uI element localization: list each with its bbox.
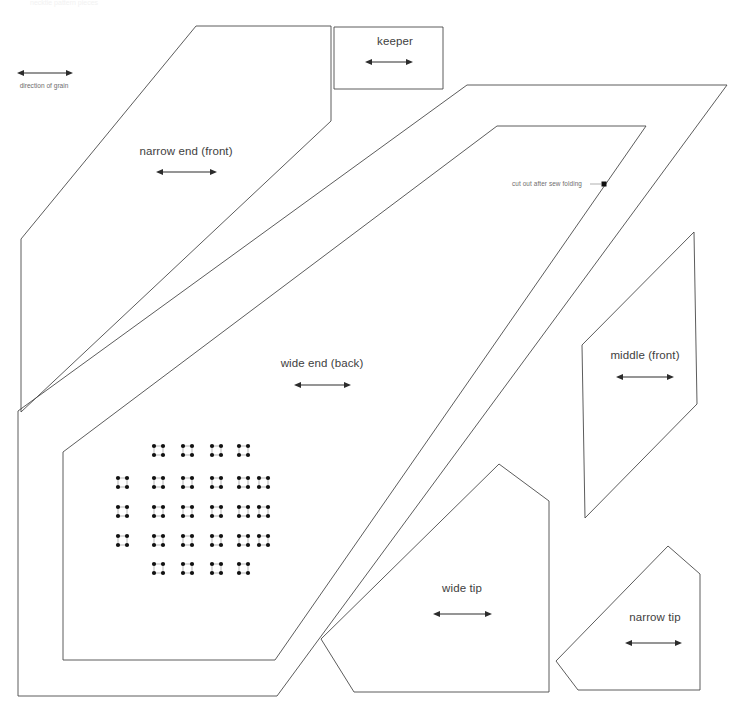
- marking-dot: [161, 476, 165, 480]
- marking-dot: [190, 534, 194, 538]
- marking-dot: [237, 505, 241, 509]
- marking-dot: [190, 571, 194, 575]
- piece-wide-tip[interactable]: [321, 464, 549, 692]
- marking-dot: [246, 514, 250, 518]
- marking-dot: [125, 485, 129, 489]
- marking-dot: [190, 453, 194, 457]
- marking-dot: [116, 514, 120, 518]
- marking-dot: [152, 444, 156, 448]
- marking-dot: [246, 485, 250, 489]
- marking-dot: [210, 534, 214, 538]
- wide-end-back-outline: [18, 85, 727, 696]
- marking-dot: [125, 505, 129, 509]
- marking-dot: [219, 534, 223, 538]
- marking-dot: [152, 534, 156, 538]
- marking-dot: [116, 505, 120, 509]
- marking-dot: [181, 476, 185, 480]
- grain-arrow-narrow-tip: [625, 640, 682, 646]
- marking-dot: [161, 485, 165, 489]
- label-keeper: keeper: [377, 35, 413, 47]
- marking-dot: [266, 514, 270, 518]
- marking-dot: [237, 485, 241, 489]
- marking-dot: [190, 543, 194, 547]
- wide-tip-outline: [321, 464, 549, 692]
- marking-dot: [152, 453, 156, 457]
- marking-dot: [210, 562, 214, 566]
- marking-dot: [237, 562, 241, 566]
- marking-dot: [237, 453, 241, 457]
- marking-dot: [237, 571, 241, 575]
- label-cut-out-after-sew-folding: cut out after sew folding: [512, 180, 582, 187]
- grain-arrow-wide-end-back: [294, 382, 351, 388]
- marking-dot: [246, 543, 250, 547]
- marking-dot: [181, 514, 185, 518]
- marking-dot: [246, 571, 250, 575]
- marking-dot: [210, 444, 214, 448]
- marking-dot: [266, 543, 270, 547]
- marking-dot: [257, 514, 261, 518]
- marking-dot: [257, 505, 261, 509]
- marking-dot: [219, 485, 223, 489]
- grain-arrow-narrow-end-front: [156, 169, 217, 175]
- marking-dot: [116, 534, 120, 538]
- marking-dot: [210, 514, 214, 518]
- marking-dot: [266, 476, 270, 480]
- marking-dot: [161, 534, 165, 538]
- marking-dot: [125, 476, 129, 480]
- marking-dot: [219, 514, 223, 518]
- marking-dot: [237, 514, 241, 518]
- marking-dot: [190, 514, 194, 518]
- grain-legend-label: direction of grain: [20, 82, 69, 89]
- marking-dot: [190, 476, 194, 480]
- label-wide-end-back: wide end (back): [281, 357, 364, 369]
- marking-dot: [152, 514, 156, 518]
- cut-out-marker-icon: [602, 182, 607, 187]
- marking-dot: [152, 476, 156, 480]
- marking-dot: [116, 485, 120, 489]
- marking-dot: [219, 476, 223, 480]
- marking-dot: [246, 453, 250, 457]
- marking-dot: [190, 485, 194, 489]
- marking-dot: [152, 571, 156, 575]
- marking-dot: [210, 476, 214, 480]
- marking-dot: [161, 562, 165, 566]
- grain-arrow-middle-front: [616, 374, 674, 380]
- marking-dot: [116, 543, 120, 547]
- marking-dot: [246, 534, 250, 538]
- marking-dot: [219, 453, 223, 457]
- marking-dot: [246, 444, 250, 448]
- marking-dot: [125, 514, 129, 518]
- marking-dot: [161, 543, 165, 547]
- marking-dot: [152, 485, 156, 489]
- piece-middle-front[interactable]: [582, 232, 697, 518]
- marking-dot: [181, 505, 185, 509]
- marking-dot: [152, 562, 156, 566]
- label-middle-front: middle (front): [610, 349, 679, 361]
- marking-dot: [237, 476, 241, 480]
- marking-dot: [152, 505, 156, 509]
- marking-dot: [257, 476, 261, 480]
- marking-dot: [190, 562, 194, 566]
- marking-dot: [257, 534, 261, 538]
- marking-dot: [257, 543, 261, 547]
- marking-dot: [266, 534, 270, 538]
- marking-dot: [237, 444, 241, 448]
- cut-out-annotation: [590, 182, 607, 187]
- marking-dot: [210, 453, 214, 457]
- marking-dot: [116, 476, 120, 480]
- marking-dot: [152, 543, 156, 547]
- marking-dot: [161, 505, 165, 509]
- label-narrow-end-front: narrow end (front): [139, 145, 232, 157]
- marking-dot: [246, 505, 250, 509]
- marking-dot: [190, 505, 194, 509]
- marking-dot: [266, 505, 270, 509]
- marking-dot: [219, 444, 223, 448]
- marking-dot: [125, 543, 129, 547]
- piece-wide-end-back[interactable]: [18, 85, 727, 696]
- grain-arrow-wide-tip: [433, 611, 492, 617]
- marking-dot: [161, 571, 165, 575]
- marking-dot: [210, 485, 214, 489]
- marking-dot: [125, 534, 129, 538]
- marking-dot: [181, 453, 185, 457]
- middle-front-outline: [582, 232, 697, 518]
